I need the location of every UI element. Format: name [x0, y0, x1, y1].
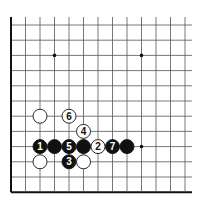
move-number: 6: [66, 111, 72, 122]
stone-body: [77, 140, 91, 154]
stone-body: [48, 140, 62, 154]
move-number: 5: [66, 141, 72, 152]
stone-body: [33, 109, 47, 123]
star-point: [53, 54, 57, 58]
black-stone: [120, 140, 134, 154]
white-stone: [77, 155, 91, 169]
white-stone: [33, 155, 47, 169]
stone-body: [33, 155, 47, 169]
stone-body: [77, 155, 91, 169]
black-stone: [48, 140, 62, 154]
black-stone-7: 7: [106, 140, 120, 154]
star-point: [140, 54, 144, 58]
white-stone-2: 2: [91, 140, 105, 154]
black-stone-5: 5: [62, 140, 76, 154]
black-stone-3: 3: [62, 155, 76, 169]
move-number: 1: [37, 141, 43, 152]
black-stone-1: 1: [33, 140, 47, 154]
move-number: 2: [95, 141, 101, 152]
white-stone-6: 6: [62, 109, 76, 123]
white-stone-4: 4: [77, 124, 91, 138]
stone-body: [120, 140, 134, 154]
move-number: 3: [66, 156, 72, 167]
star-point: [140, 145, 144, 149]
move-number: 7: [110, 141, 116, 152]
move-number: 4: [81, 126, 87, 137]
black-stone: [77, 140, 91, 154]
go-board: 6415273: [0, 0, 206, 210]
white-stone: [33, 109, 47, 123]
